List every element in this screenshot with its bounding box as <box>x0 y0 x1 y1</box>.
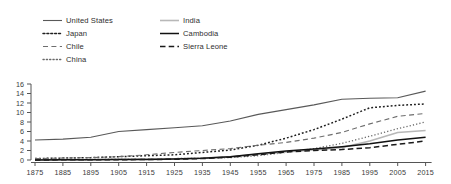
x-tick-label: 1885 <box>55 168 72 177</box>
series-line-united-states <box>35 91 426 140</box>
x-tick-label: 1985 <box>334 168 351 177</box>
y-tick-label: 16 <box>16 80 24 89</box>
x-tick-label: 1975 <box>306 168 323 177</box>
line-chart: 0246810121416 18751885189519051915192519… <box>0 0 451 184</box>
x-axis: 1875188518951905191519251935194519551965… <box>27 163 434 177</box>
legend-label-japan: Japan <box>66 29 87 38</box>
x-tick-label: 1905 <box>110 168 127 177</box>
legend-label-united-states: United States <box>66 16 113 25</box>
y-tick-label: 10 <box>16 108 24 117</box>
x-tick-label: 1895 <box>82 168 99 177</box>
y-tick-label: 4 <box>20 137 24 146</box>
x-tick-label: 1955 <box>250 168 267 177</box>
series-line-chile <box>35 113 426 158</box>
series-line-china <box>35 122 426 160</box>
chart-legend: United StatesJapanChileChinaIndiaCambodi… <box>43 16 228 64</box>
y-tick-label: 14 <box>16 89 24 98</box>
x-tick-label: 2015 <box>417 168 434 177</box>
y-tick-label: 8 <box>20 118 24 127</box>
y-tick-label: 0 <box>20 156 24 165</box>
y-tick-label: 6 <box>20 127 24 136</box>
y-tick-label: 12 <box>16 99 24 108</box>
x-tick-label: 1935 <box>194 168 211 177</box>
y-tick-label: 2 <box>20 146 24 155</box>
x-tick-label: 1995 <box>361 168 378 177</box>
x-tick-label: 2005 <box>389 168 406 177</box>
y-axis: 0246810121416 <box>16 80 31 165</box>
legend-label-india: India <box>183 16 201 25</box>
legend-label-china: China <box>66 55 87 64</box>
legend-label-cambodia: Cambodia <box>183 29 219 38</box>
series-lines <box>35 91 426 160</box>
x-tick-label: 1965 <box>278 168 295 177</box>
series-line-india <box>35 131 426 160</box>
x-tick-label: 1875 <box>27 168 44 177</box>
legend-label-sierra-leone: Sierra Leone <box>183 42 228 51</box>
legend-label-chile: Chile <box>66 42 84 51</box>
series-line-japan <box>35 104 426 159</box>
x-tick-label: 1945 <box>222 168 239 177</box>
x-tick-label: 1915 <box>138 168 155 177</box>
x-tick-label: 1925 <box>166 168 183 177</box>
chart-canvas: 0246810121416 18751885189519051915192519… <box>0 0 451 184</box>
